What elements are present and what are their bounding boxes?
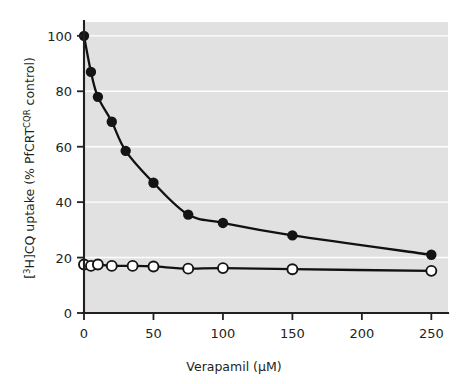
x-tick-label: 150 <box>280 326 305 341</box>
data-point <box>148 261 158 271</box>
x-tick-label: 100 <box>211 326 236 341</box>
y-tick-label: 80 <box>55 84 72 99</box>
x-axis-label: Verapamil (µM) <box>186 359 281 374</box>
data-point <box>86 67 96 77</box>
data-point <box>107 261 117 271</box>
data-point <box>426 250 436 260</box>
data-point <box>218 218 228 228</box>
data-point <box>426 266 436 276</box>
y-tick-label: 100 <box>47 29 72 44</box>
data-point <box>107 117 117 127</box>
data-point <box>93 260 103 270</box>
y-tick-label: 60 <box>55 140 72 155</box>
data-point <box>287 264 297 274</box>
data-point <box>148 178 158 188</box>
y-tick-label: 0 <box>64 306 72 321</box>
data-point <box>93 92 103 102</box>
data-point <box>128 261 138 271</box>
x-tick-label: 0 <box>80 326 88 341</box>
x-tick-label: 250 <box>419 326 444 341</box>
data-point <box>183 264 193 274</box>
verapamil-cq-uptake-chart: 050100150200250 020406080100 Verapamil (… <box>0 0 468 384</box>
data-point <box>287 230 297 240</box>
x-tick-label: 200 <box>349 326 374 341</box>
x-tick-label: 50 <box>145 326 162 341</box>
data-point <box>183 209 193 219</box>
y-tick-label: 20 <box>55 251 72 266</box>
chart-figure: 050100150200250 020406080100 Verapamil (… <box>0 0 468 384</box>
data-point <box>218 263 228 273</box>
y-axis-label: [3H]CQ uptake (% PfCRTCQR control) <box>22 57 37 279</box>
data-point <box>120 146 130 156</box>
y-tick-label: 40 <box>55 195 72 210</box>
